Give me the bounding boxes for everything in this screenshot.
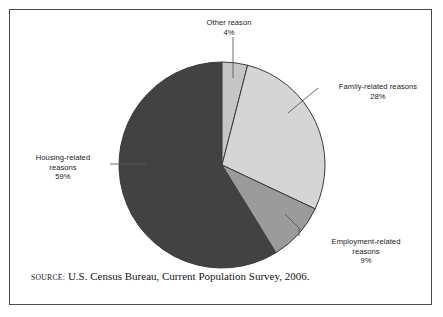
slice-label-housing-name2: reasons [17,163,109,173]
slice-label-employment-value: 9% [303,256,429,266]
slice-label-employment-name2: reasons [303,247,429,257]
slice-label-other: Other reason 4% [183,18,275,37]
source-note: SOURCE: U.S. Census Bureau, Current Popu… [31,270,310,282]
slice-label-housing-name: Housing-related [36,153,90,162]
slice-label-employment-name: Employment-related [332,237,401,246]
slice-label-housing: Housing-related reasons 59% [17,153,109,182]
pie-chart-figure: Other reason 4% Family-related reasons 2… [0,0,443,317]
slice-label-family-name: Family-related reasons [339,82,417,91]
source-note-label: SOURCE: [31,273,65,282]
slice-label-other-value: 4% [183,28,275,38]
slice-label-family: Family-related reasons 28% [322,82,434,101]
source-note-text: U.S. Census Bureau, Current Population S… [65,270,309,282]
slice-label-family-value: 28% [322,92,434,102]
slice-label-housing-value: 59% [17,172,109,182]
slice-label-employment: Employment-related reasons 9% [303,237,429,266]
slice-label-other-name: Other reason [207,18,252,27]
